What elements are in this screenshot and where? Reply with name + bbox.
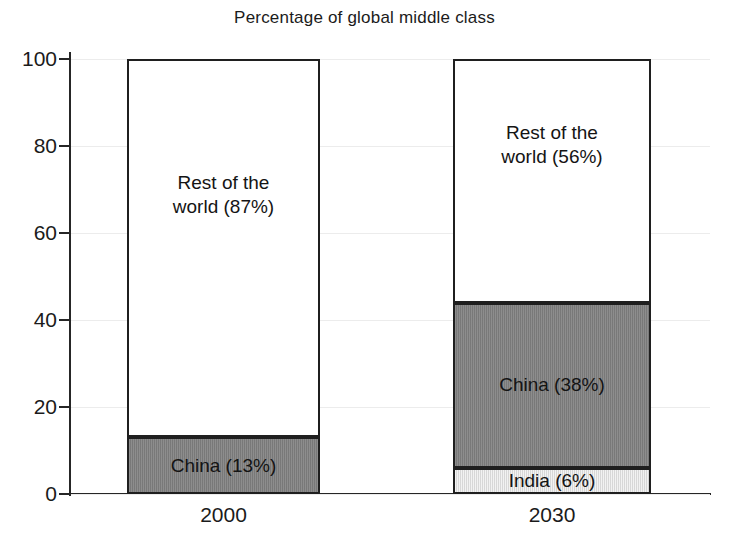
segment-label-2030-china: China (38%)	[495, 373, 609, 397]
y-tick-label-40: 40	[5, 309, 57, 330]
y-tick-mark-80	[59, 145, 71, 147]
segment-label-2000-rest-of-world: Rest of the world (87%)	[169, 171, 278, 220]
plot-area: Rest of the world (87%)China (13%)Rest o…	[71, 59, 710, 494]
y-tick-label-100: 100	[5, 48, 57, 69]
bar-segment-2030-india[interactable]: India (6%)	[453, 468, 651, 494]
x-axis-category-label-1: 2030	[453, 503, 651, 526]
segment-label-2030-rest-of-world: Rest of the world (56%)	[497, 121, 606, 170]
y-tick-label-80: 80	[5, 135, 57, 156]
y-tick-mark-20	[59, 406, 71, 408]
y-tick-label-60: 60	[5, 222, 57, 243]
bar-segment-2030-china[interactable]: China (38%)	[453, 303, 651, 468]
y-tick-label-0: 0	[5, 483, 57, 504]
bar-segment-2030-rest-of-world[interactable]: Rest of the world (56%)	[453, 59, 651, 303]
y-tick-mark-100	[59, 58, 71, 60]
chart-title: Percentage of global middle class	[0, 8, 729, 28]
y-tick-mark-60	[59, 232, 71, 234]
y-axis-tick-labels: 100806040200	[0, 0, 57, 549]
segment-label-2030-india: India (6%)	[505, 471, 600, 490]
bar-segment-2000-china[interactable]: China (13%)	[127, 437, 320, 494]
x-axis-category-label-0: 2000	[127, 503, 320, 526]
bar-2030[interactable]: Rest of the world (56%)China (38%)India …	[453, 59, 651, 494]
segment-label-2000-china: China (13%)	[167, 456, 281, 475]
bar-2000[interactable]: Rest of the world (87%)China (13%)	[127, 59, 320, 494]
chart-container: Percentage of global middle class 100806…	[0, 0, 729, 549]
bar-segment-2000-rest-of-world[interactable]: Rest of the world (87%)	[127, 59, 320, 437]
y-tick-label-20: 20	[5, 396, 57, 417]
y-tick-mark-0	[59, 493, 71, 495]
gridline-0	[71, 494, 710, 495]
y-tick-mark-40	[59, 319, 71, 321]
